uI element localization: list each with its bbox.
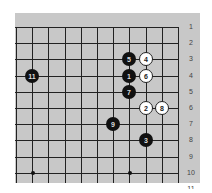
grid-vline	[65, 27, 66, 183]
grid-vline	[178, 27, 179, 183]
row-label: 4	[186, 72, 196, 79]
white-stone: 8	[155, 101, 169, 115]
grid-vline	[129, 27, 130, 183]
black-stone: 11	[25, 69, 39, 83]
grid-vline	[81, 27, 82, 183]
black-stone: 9	[106, 117, 120, 131]
row-label: 5	[186, 88, 196, 95]
row-label: 10	[186, 169, 196, 176]
row-label: 1	[186, 23, 196, 30]
grid-vline	[48, 27, 49, 183]
row-label: 9	[186, 153, 196, 160]
black-stone: 5	[122, 52, 136, 66]
grid-vline	[97, 27, 98, 183]
white-stone: 6	[139, 69, 153, 83]
star-point	[128, 171, 132, 175]
row-label: 11	[186, 185, 196, 189]
row-label: 8	[186, 136, 196, 143]
grid-vline	[16, 27, 17, 183]
row-label: 3	[186, 55, 196, 62]
white-stone: 4	[139, 52, 153, 66]
grid-vline	[113, 27, 114, 183]
white-stone: 2	[139, 101, 153, 115]
star-point	[31, 171, 35, 175]
black-stone: 7	[122, 85, 136, 99]
row-label: 2	[186, 39, 196, 46]
black-stone: 1	[122, 69, 136, 83]
row-label: 6	[186, 104, 196, 111]
row-label: 7	[186, 120, 196, 127]
black-stone: 3	[139, 133, 153, 147]
grid-vline	[32, 27, 33, 183]
